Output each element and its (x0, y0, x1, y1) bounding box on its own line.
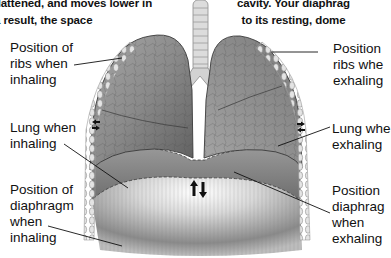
label-lung-inhaling: Lung when inhaling (10, 120, 76, 152)
label-lung-exhaling: Lung whe exhaling (332, 121, 391, 153)
label-line: Position (333, 41, 383, 57)
label-line: when (10, 214, 74, 230)
label-line: ribs whe (333, 57, 383, 73)
label-line: exhaling (333, 73, 383, 89)
label-line: exhaling (332, 231, 385, 247)
label-line: diaphragm (10, 198, 74, 214)
label-ribs-inhaling: Position of ribs when inhaling (10, 40, 73, 88)
label-line: Position (332, 183, 385, 199)
label-line: inhaling (10, 230, 74, 246)
label-line: when (332, 215, 385, 231)
label-ribs-exhaling: Position ribs whe exhaling (333, 41, 383, 89)
label-line: Position of (10, 182, 74, 198)
label-line: inhaling (10, 136, 76, 152)
label-line: diaphrag (332, 199, 385, 215)
label-diaphragm-inhaling: Position of diaphragm when inhaling (10, 182, 74, 246)
label-line: ribs when (10, 56, 73, 72)
label-line: Lung whe (332, 121, 391, 137)
label-line: Position of (10, 40, 73, 56)
label-line: inhaling (10, 72, 73, 88)
label-line: exhaling (332, 137, 391, 153)
label-diaphragm-exhaling: Position diaphrag when exhaling (332, 183, 385, 247)
label-line: Lung when (10, 120, 76, 136)
